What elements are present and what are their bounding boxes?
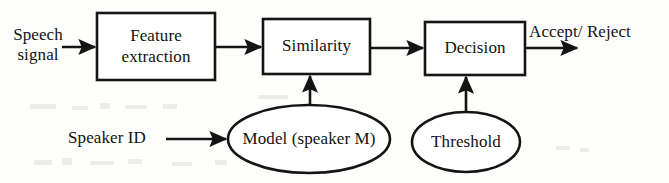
speech-signal-label: Speech signal: [10, 25, 66, 64]
threshold-ellipse: [412, 112, 520, 172]
speaker-verification-diagram: Feature extraction Similarity Decision M…: [0, 0, 669, 183]
accept-reject-label: Accept/ Reject: [529, 22, 631, 42]
model-ellipse: [228, 105, 390, 173]
similarity-box: [263, 19, 370, 74]
speaker-id-label: Speaker ID: [68, 128, 146, 148]
feature-extraction-box: [97, 13, 215, 80]
decision-box: [425, 22, 525, 75]
